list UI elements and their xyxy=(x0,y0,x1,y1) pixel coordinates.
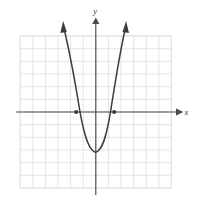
y-axis-label: y xyxy=(92,6,97,16)
right-x-intercept-dot xyxy=(112,110,116,114)
coordinate-plane-svg: x y xyxy=(0,0,198,203)
x-axis-label: x xyxy=(184,107,189,117)
left-x-intercept-dot xyxy=(74,110,78,114)
x-axis xyxy=(16,108,184,115)
y-axis xyxy=(92,18,99,196)
graph-figure: x y xyxy=(0,0,198,203)
